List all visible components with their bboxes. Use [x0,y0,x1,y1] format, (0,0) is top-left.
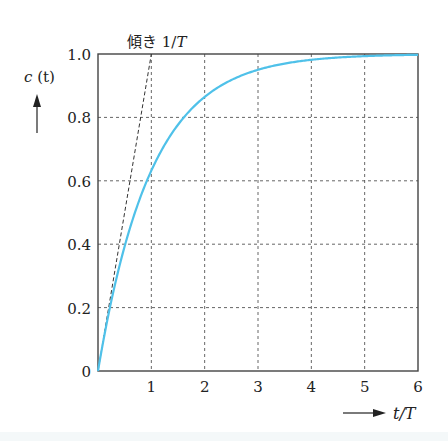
y-tick-label: 1.0 [67,46,91,64]
x-tick-label: 2 [200,378,210,396]
step-response-chart: 00.20.40.60.81.0 123456 傾き 1/T c (t) t/T [0,0,448,441]
x-tick-label: 3 [253,378,263,396]
x-tick-labels: 123456 [147,378,423,396]
grid-lines [98,54,418,371]
y-tick-label: 0 [81,363,91,381]
y-tick-label: 0.2 [67,300,91,318]
x-axis-label: t/T [393,404,417,423]
y-tick-label: 0.8 [67,109,91,127]
x-tick-label: 1 [147,378,157,396]
right-arrow-icon [343,409,386,417]
y-tick-labels: 00.20.40.60.81.0 [67,46,91,381]
x-tick-label: 6 [413,378,423,396]
x-tick-label: 4 [307,378,317,396]
y-axis-label: c (t) [24,68,55,86]
y-tick-label: 0.6 [67,173,91,191]
y-tick-label: 0.4 [67,236,91,254]
up-arrow-icon [33,94,41,133]
x-tick-label: 5 [360,378,370,396]
bottom-margin [0,432,448,441]
slope-annotation: 傾き 1/T [127,33,187,51]
